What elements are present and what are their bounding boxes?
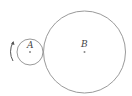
- circle-a-center-dot: [29, 51, 31, 53]
- rotation-arrow-icon: [11, 41, 15, 61]
- circle-b: B: [44, 11, 126, 93]
- circle-a: A: [17, 39, 43, 65]
- circle-a-label: A: [26, 40, 34, 50]
- circle-b-center-dot: [84, 51, 86, 53]
- tangent-circles-diagram: A B: [0, 0, 132, 96]
- circle-b-label: B: [80, 39, 88, 49]
